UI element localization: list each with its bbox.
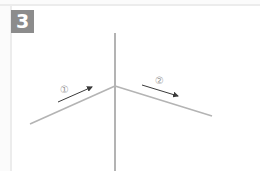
arrow-1-label: ① bbox=[60, 84, 69, 95]
left-fold-line bbox=[30, 86, 115, 124]
arrow-2-label: ② bbox=[155, 75, 164, 86]
right-fold-line bbox=[115, 86, 212, 116]
diagram-drawing: ① ② bbox=[0, 0, 260, 171]
instruction-diagram: 3 ① ② bbox=[0, 0, 260, 171]
arrow-2-icon bbox=[142, 85, 178, 96]
